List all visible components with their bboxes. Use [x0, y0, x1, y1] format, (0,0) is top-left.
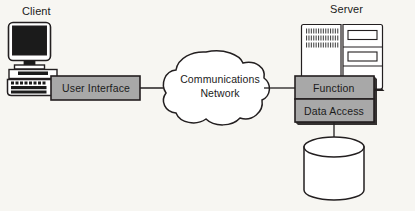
monitor-base: [15, 65, 45, 69]
network-label-line2: Network: [170, 87, 270, 100]
data-access-label: Data Access: [304, 106, 364, 117]
server-drive-bay-2: [348, 52, 377, 61]
drive-slot: [18, 72, 48, 76]
function-label: Function: [313, 83, 354, 94]
monitor-screen: [13, 26, 47, 55]
network-label-line1: Communications: [170, 73, 270, 86]
client-server-diagram: Client Server User Interface Communicati…: [0, 0, 415, 211]
client-title: Client: [22, 6, 51, 17]
user-interface-label: User Interface: [62, 83, 130, 94]
database-top: [304, 137, 364, 157]
server-drive-bay-1: [348, 31, 377, 40]
server-title: Server: [330, 4, 363, 15]
desktop-computer-icon: [8, 23, 58, 96]
database-cylinder-icon: [304, 137, 364, 200]
